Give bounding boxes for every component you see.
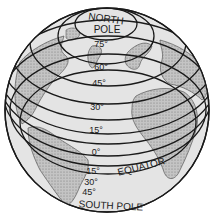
- latitude-label-75n: 75°: [94, 39, 108, 49]
- latitude-label-30s: 30°: [84, 177, 98, 187]
- latitude-label-45n: 45°: [92, 78, 106, 88]
- latitude-label-0: 0°: [92, 147, 101, 157]
- globe-diagram: NORTH POLE 75° 60° 45° 30° 15° 0° EQUATO…: [0, 0, 212, 220]
- latitude-label-60n: 60°: [94, 62, 108, 72]
- latitude-label-30n: 30°: [90, 102, 104, 112]
- north-pole-label-line2: POLE: [94, 24, 121, 35]
- latitude-label-45s: 45°: [82, 187, 96, 197]
- latitude-label-15n: 15°: [89, 125, 103, 135]
- latitude-label-15s: 15°: [86, 166, 100, 176]
